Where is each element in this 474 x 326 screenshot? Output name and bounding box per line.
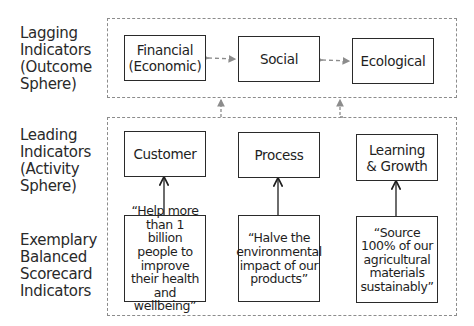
customer-box: Customer <box>124 131 206 177</box>
indicator-quote-process: “Halve the environmental impact of our p… <box>238 215 320 302</box>
process-box: Process <box>238 132 320 178</box>
indicator-quote-learning: “Source 100% of our agricultural materia… <box>356 216 438 303</box>
social-ecological-arrow <box>322 60 349 61</box>
ecological-box: Ecological <box>352 38 434 84</box>
financial-social-arrow <box>208 58 235 59</box>
indicator-quote-customer: “Help more than 1 billion people to impr… <box>124 215 206 302</box>
activity-to-outcome-arrow-right <box>340 100 343 117</box>
social-box: Social <box>238 36 320 82</box>
financial-box: Financial (Economic) <box>124 35 206 81</box>
learning-growth-box: Learning & Growth <box>356 134 438 181</box>
